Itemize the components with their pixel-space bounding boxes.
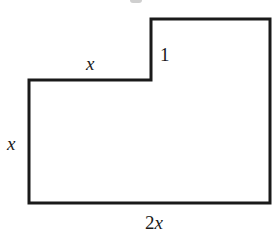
label-top-left-edge: x [86, 54, 94, 73]
label-step-height: 1 [160, 45, 170, 64]
l-shape-figure [0, 0, 273, 234]
label-bottom-variable: x [155, 212, 163, 233]
label-bottom-coefficient: 2 [145, 212, 155, 233]
label-bottom-edge: 2x [145, 213, 163, 232]
l-shape-outline [29, 19, 270, 203]
label-left-edge: x [7, 134, 15, 153]
